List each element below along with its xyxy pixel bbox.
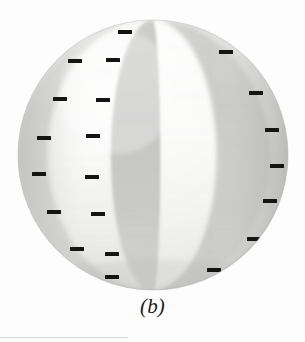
tick-mark	[105, 275, 119, 279]
tick-mark	[118, 30, 132, 34]
figure-container: (b)	[0, 0, 305, 342]
tick-mark	[270, 164, 284, 168]
tick-mark	[68, 59, 82, 63]
tick-mark	[85, 175, 99, 179]
tick-mark	[96, 98, 110, 102]
tick-mark	[86, 134, 100, 138]
tick-mark	[37, 136, 51, 140]
tick-mark	[53, 97, 67, 101]
tick-mark	[219, 50, 233, 54]
sphere-highlight	[60, 30, 176, 154]
tick-mark	[265, 128, 279, 132]
tick-mark	[263, 199, 277, 203]
scan-edge-artifact	[0, 337, 128, 338]
tick-mark	[249, 91, 263, 95]
tick-mark	[106, 58, 120, 62]
tick-mark	[32, 172, 46, 176]
tick-mark	[105, 252, 119, 256]
figure-caption: (b)	[0, 296, 305, 317]
tick-mark	[70, 247, 84, 251]
tick-mark	[47, 210, 61, 214]
tick-mark	[91, 212, 105, 216]
tick-mark	[207, 268, 221, 272]
sphere-illustration	[0, 0, 305, 342]
